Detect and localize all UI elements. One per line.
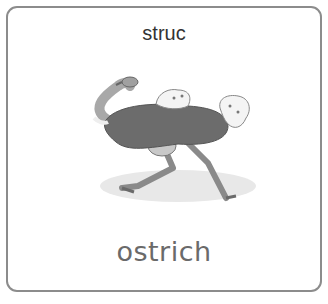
- flashcard[interactable]: struc ostrich: [6, 6, 322, 292]
- vocabulary-word: ostrich: [8, 236, 320, 267]
- ostrich-icon: [78, 68, 268, 218]
- translation-label: struc: [8, 22, 320, 45]
